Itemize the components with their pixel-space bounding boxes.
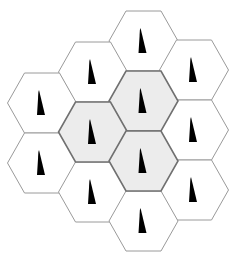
hex-grid-canvas bbox=[0, 0, 236, 258]
cells-layer bbox=[8, 11, 229, 251]
hex-cell-diagram: Hexagonal cellular network layout with d… bbox=[0, 0, 236, 258]
